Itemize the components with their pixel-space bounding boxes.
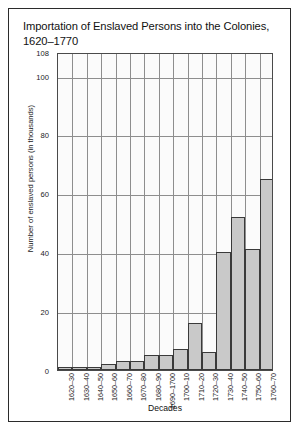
chart-title: Importation of Enslaved Persons into the… (23, 19, 279, 49)
x-tick-label: 1760–70 (269, 373, 278, 401)
gridline-vertical (173, 54, 174, 370)
gridline-vertical (116, 54, 117, 370)
y-tick-label: 60 (41, 190, 53, 199)
y-tick-label: 100 (36, 72, 53, 81)
gridline-vertical (130, 54, 131, 370)
gridline-horizontal (58, 195, 272, 196)
x-tick-label: 1630–40 (82, 373, 91, 401)
gridline-vertical (159, 54, 160, 370)
y-tick-label: 80 (41, 131, 53, 140)
y-tick-label: 0 (45, 367, 53, 376)
bar (144, 355, 159, 370)
bar (116, 361, 130, 370)
gridline-vertical (72, 54, 73, 370)
x-tick-label: 1710–20 (197, 373, 206, 401)
y-tick-label: 20 (41, 308, 53, 317)
bar (72, 367, 87, 370)
x-tick-label: 1670–80 (139, 373, 148, 401)
bar (188, 323, 202, 370)
chart-figure: Importation of Enslaved Persons into the… (8, 8, 291, 422)
bar (87, 367, 101, 370)
x-axis-label: Decades (57, 403, 273, 413)
gridline-vertical (202, 54, 203, 370)
gridline-vertical (101, 54, 102, 370)
bar (216, 252, 231, 370)
bar (231, 217, 245, 370)
y-axis-ticks: 020406080100108 (9, 53, 53, 371)
gridline-horizontal (58, 78, 272, 79)
gridline-vertical (87, 54, 88, 370)
x-tick-label: 1660–70 (125, 373, 134, 401)
y-tick-label: 108 (36, 49, 53, 58)
x-tick-label: 1730–40 (226, 373, 235, 401)
plot-inner (58, 54, 272, 370)
bar (130, 361, 144, 370)
bar (202, 352, 216, 370)
x-tick-label: 1720–30 (211, 373, 220, 401)
x-tick-label: 1740–50 (240, 373, 249, 401)
x-tick-label: 1620–30 (67, 373, 76, 401)
x-tick-label: 1680–90 (154, 373, 163, 401)
bar (173, 349, 188, 370)
bar (159, 355, 173, 370)
x-tick-label: 1650–60 (110, 373, 119, 401)
y-tick-label: 40 (41, 249, 53, 258)
plot-area (57, 53, 273, 371)
x-tick-label: 1700–10 (182, 373, 191, 401)
bar (101, 364, 116, 370)
x-tick-label: 1750–60 (254, 373, 263, 401)
bar (58, 367, 72, 370)
gridline-horizontal (58, 136, 272, 137)
bar (260, 179, 272, 370)
gridline-vertical (144, 54, 145, 370)
x-tick-label: 1640–50 (96, 373, 105, 401)
bar (245, 249, 260, 370)
